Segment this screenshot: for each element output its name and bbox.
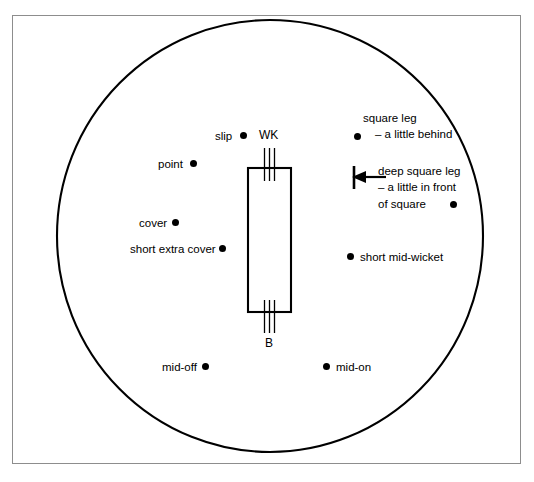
fielder-dot-mid-off [202,363,209,370]
fielder-dot-point [190,160,197,167]
fielder-dot-mid-on [323,363,330,370]
square-leg-label-line1: square leg [363,111,417,127]
fielder-label-short-mid-wicket: short mid-wicket [360,250,443,264]
fielder-dot-deep-square-leg [450,201,457,208]
field-graphics [0,0,534,482]
pitch-rectangle [248,168,291,312]
fielder-dot-slip [240,132,247,139]
deep-square-leg-label-line1: deep square leg [378,164,460,180]
fielder-dot-short-mid-wicket [347,253,354,260]
fielder-label-mid-off: mid-off [162,360,197,374]
fielder-label-slip: slip [215,129,232,143]
wicketkeeper-label: WK [259,128,278,142]
fielder-label-cover: cover [139,216,167,230]
deep-square-leg-label-line2: – a little in front [378,180,456,196]
field-boundary-ellipse [57,20,483,452]
fielder-label-mid-on: mid-on [336,360,371,374]
stumps-bottom [265,300,275,333]
stumps-top [265,148,275,181]
fielder-dot-square-leg [354,133,361,140]
fielder-label-short-extra-cover: short extra cover [130,242,216,256]
cricket-field-diagram: WK B slippointcovershort extra covermid-… [0,0,534,482]
fielder-dot-short-extra-cover [219,245,226,252]
fielder-label-point: point [158,157,183,171]
deep-square-leg-label-line3: of square [378,197,426,213]
square-leg-label-line2: – a little behind [375,127,452,143]
fielder-dot-cover [172,219,179,226]
batsman-label: B [265,336,273,350]
